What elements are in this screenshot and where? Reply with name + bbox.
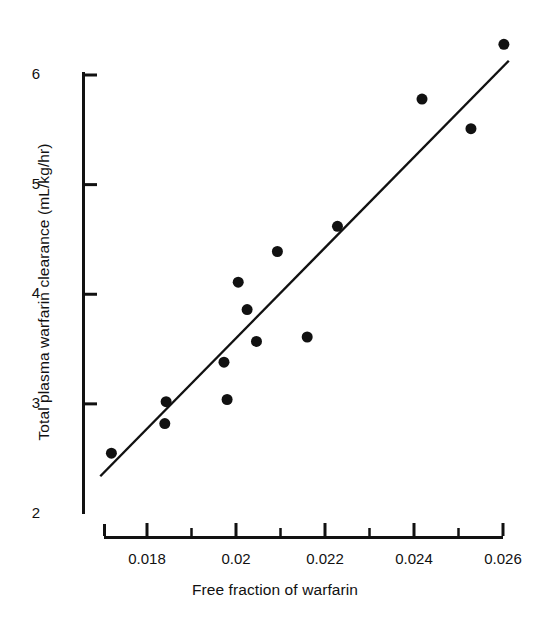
data-point	[272, 246, 283, 257]
y-axis-ticks	[84, 75, 97, 404]
data-point	[302, 332, 313, 343]
x-axis-tick-label: 0.024	[374, 550, 454, 567]
data-point	[251, 336, 262, 347]
regression-line-segment	[100, 61, 509, 476]
axis-lines	[84, 72, 504, 538]
data-point	[465, 123, 476, 134]
data-points	[106, 39, 509, 459]
x-axis-title: Free fraction of warfarin	[0, 581, 550, 599]
data-point	[218, 357, 229, 368]
y-axis-tick-label: 4	[0, 284, 40, 301]
data-point	[242, 304, 253, 315]
data-point	[159, 418, 170, 429]
data-point	[498, 39, 509, 50]
data-point	[161, 396, 172, 407]
data-point	[222, 394, 233, 405]
regression-line	[100, 61, 509, 476]
data-point	[332, 221, 343, 232]
x-axis-tick-label: 0.022	[285, 550, 365, 567]
y-axis-tick-label: 5	[0, 175, 40, 192]
y-axis-tick-label: 3	[0, 394, 40, 411]
plot-canvas	[0, 0, 550, 626]
scatter-plot-figure: Free fraction of warfarin Total plasma w…	[0, 0, 550, 626]
y-axis-tick-label: 2	[0, 504, 40, 521]
x-axis-tick-label: 0.02	[196, 550, 276, 567]
data-point	[233, 277, 244, 288]
data-point	[417, 94, 428, 105]
x-axis-tick-label: 0.018	[107, 550, 187, 567]
x-axis-ticks	[105, 523, 504, 536]
x-axis-tick-label: 0.026	[463, 550, 543, 567]
data-point	[106, 448, 117, 459]
y-axis-tick-label: 6	[0, 65, 40, 82]
